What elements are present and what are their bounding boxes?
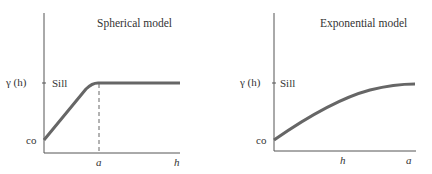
x-label-h: h bbox=[340, 154, 346, 166]
exponential-curve bbox=[274, 84, 415, 140]
spherical-panel: Spherical model γ (h) Sill co a h bbox=[5, 13, 180, 168]
spherical-curve bbox=[44, 83, 180, 140]
nugget-label: co bbox=[26, 134, 37, 146]
sill-label: Sill bbox=[52, 77, 67, 89]
sill-label: Sill bbox=[280, 77, 295, 89]
y-axis-label: γ (h) bbox=[5, 76, 27, 89]
nugget-label: co bbox=[256, 134, 267, 146]
x-label-a: a bbox=[96, 156, 102, 168]
panel-title: Spherical model bbox=[97, 17, 172, 30]
x-label-h: h bbox=[174, 156, 180, 168]
exponential-panel: Exponential model γ (h) Sill co h a bbox=[239, 13, 416, 166]
variogram-figure: Spherical model γ (h) Sill co a h Expone… bbox=[0, 0, 432, 174]
x-label-a: a bbox=[406, 154, 412, 166]
panel-title: Exponential model bbox=[320, 17, 407, 30]
y-axis-label: γ (h) bbox=[239, 76, 261, 89]
